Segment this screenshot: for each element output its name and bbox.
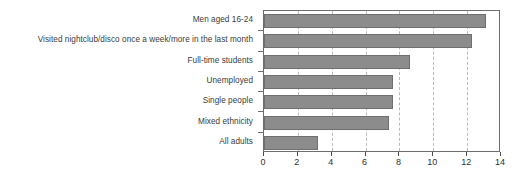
bar [264, 14, 486, 28]
category-label: Visited nightclub/disco once a week/more… [38, 33, 253, 47]
x-tick-mark [297, 152, 298, 156]
bar [264, 95, 393, 109]
x-tick-mark [331, 152, 332, 156]
x-tick-mark [500, 152, 501, 156]
category-label: Mixed ethnicity [198, 115, 253, 129]
x-tick-label: 2 [285, 157, 309, 168]
x-tick-label: 6 [353, 157, 377, 168]
category-label: Single people [203, 94, 253, 108]
category-tick [258, 111, 263, 112]
x-tick-label: 10 [420, 157, 444, 168]
category-tick [258, 91, 263, 92]
x-tick-label: 4 [319, 157, 343, 168]
bar [264, 55, 410, 69]
bar [264, 75, 393, 89]
category-label: Full-time students [187, 54, 253, 68]
bar [264, 116, 389, 130]
category-label: Men aged 16-24 [193, 13, 253, 27]
gridline-8 [399, 11, 400, 151]
gridline-10 [433, 11, 434, 151]
category-label: Unemployed [207, 74, 253, 88]
x-tick-label: 12 [454, 157, 478, 168]
gridline-12 [467, 11, 468, 151]
bar [264, 34, 472, 48]
x-tick-mark [398, 152, 399, 156]
category-tick [258, 132, 263, 133]
x-tick-mark [365, 152, 366, 156]
x-tick-label: 8 [386, 157, 410, 168]
category-label: All adults [219, 135, 253, 149]
x-tick-label: 14 [488, 157, 512, 168]
category-tick [258, 71, 263, 72]
x-tick-mark [432, 152, 433, 156]
category-tick [258, 30, 263, 31]
x-tick-mark [466, 152, 467, 156]
category-tick [258, 51, 263, 52]
x-tick-label: 0 [251, 157, 275, 168]
plot-inner [264, 11, 499, 151]
plot-area [263, 10, 500, 152]
category-axis-labels: Men aged 16-24Visited nightclub/disco on… [0, 10, 258, 152]
bar-chart: Men aged 16-24Visited nightclub/disco on… [0, 0, 516, 176]
x-tick-mark [263, 152, 264, 156]
bar [264, 136, 318, 150]
